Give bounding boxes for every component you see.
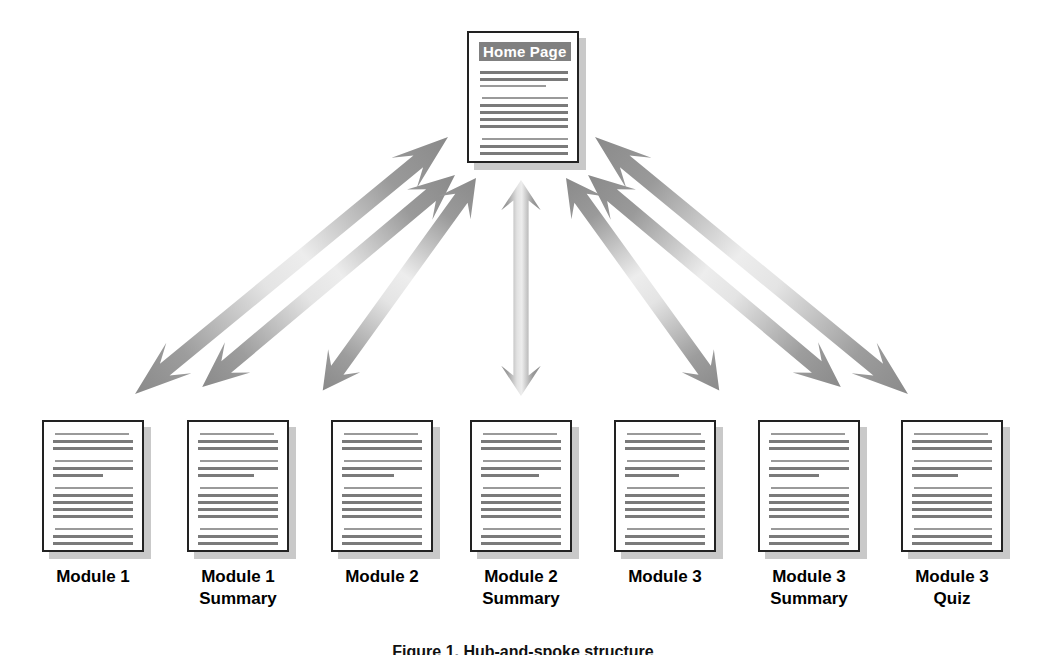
- connector-home-to-module-3-summary: [575, 160, 853, 402]
- caption-line-1: Module 3: [600, 566, 730, 588]
- document-module-2-summary[interactable]: [470, 420, 572, 552]
- connector-home-to-module-2: [307, 166, 492, 402]
- caption-line-1: Module 1: [173, 566, 303, 588]
- caption-module-1-summary: Module 1 Summary: [173, 566, 303, 610]
- caption-line-1: Module 3: [744, 566, 874, 588]
- home-page-document[interactable]: Home Page: [467, 31, 579, 163]
- document-module-1[interactable]: [42, 420, 144, 552]
- caption-module-2-summary: Module 2 Summary: [456, 566, 586, 610]
- connector-home-to-module-2-summary: [501, 180, 541, 396]
- caption-line-1: Module 2: [317, 566, 447, 588]
- document-module-1-summary[interactable]: [187, 420, 289, 552]
- caption-line-2: Summary: [456, 588, 586, 610]
- connector-home-to-module-1-summary: [190, 160, 468, 402]
- caption-module-3-summary: Module 3 Summary: [744, 566, 874, 610]
- caption-line-2: Summary: [744, 588, 874, 610]
- caption-line-2: Summary: [173, 588, 303, 610]
- figure-canvas: Home Page Module 1: [0, 0, 1046, 655]
- connector-home-to-module-1: [123, 122, 461, 410]
- caption-line-1: Module 1: [28, 566, 158, 588]
- connector-home-to-module-3-quiz: [582, 122, 920, 410]
- document-module-3-quiz[interactable]: [901, 420, 1003, 552]
- document-module-3[interactable]: [614, 420, 716, 552]
- caption-module-3-quiz: Module 3 Quiz: [887, 566, 1017, 610]
- home-page-title-band: Home Page: [479, 42, 571, 61]
- caption-line-1: Module 3: [887, 566, 1017, 588]
- caption-line-2: Quiz: [887, 588, 1017, 610]
- caption-module-2: Module 2: [317, 566, 447, 588]
- caption-module-1: Module 1: [28, 566, 158, 588]
- figure-caption: Figure 1. Hub-and-spoke structure: [0, 643, 1046, 655]
- connector-home-to-module-3: [550, 166, 735, 402]
- document-module-3-summary[interactable]: [758, 420, 860, 552]
- caption-module-3: Module 3: [600, 566, 730, 588]
- document-module-2[interactable]: [331, 420, 433, 552]
- caption-line-1: Module 2: [456, 566, 586, 588]
